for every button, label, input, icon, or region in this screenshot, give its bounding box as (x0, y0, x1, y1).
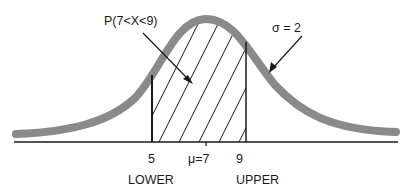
tick-label-upper: 9 (236, 152, 243, 166)
tick-label-lower: 5 (148, 152, 155, 166)
sigma-label: σ = 2 (272, 21, 301, 35)
tick-label-mean: μ=7 (188, 152, 210, 166)
probability-label: P(7<X<9) (104, 14, 158, 28)
caption-lower: LOWER (128, 173, 174, 187)
sigma-arrow (269, 36, 302, 73)
caption-upper: UPPER (236, 173, 279, 187)
bell-curve (16, 19, 396, 134)
normal-distribution-diagram: P(7<X<9) σ = 2 5 μ=7 9 LOWER UPPER (0, 0, 411, 192)
